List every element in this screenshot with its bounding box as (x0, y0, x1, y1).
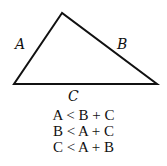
inequality-1: A < B + C (0, 107, 167, 123)
side-label-b: B (116, 36, 127, 52)
side-label-c: C (68, 88, 79, 104)
inequality-2: B < A + C (0, 123, 167, 139)
side-label-a: A (13, 36, 25, 52)
triangle (14, 13, 157, 84)
inequality-3: C < A + B (0, 139, 167, 155)
